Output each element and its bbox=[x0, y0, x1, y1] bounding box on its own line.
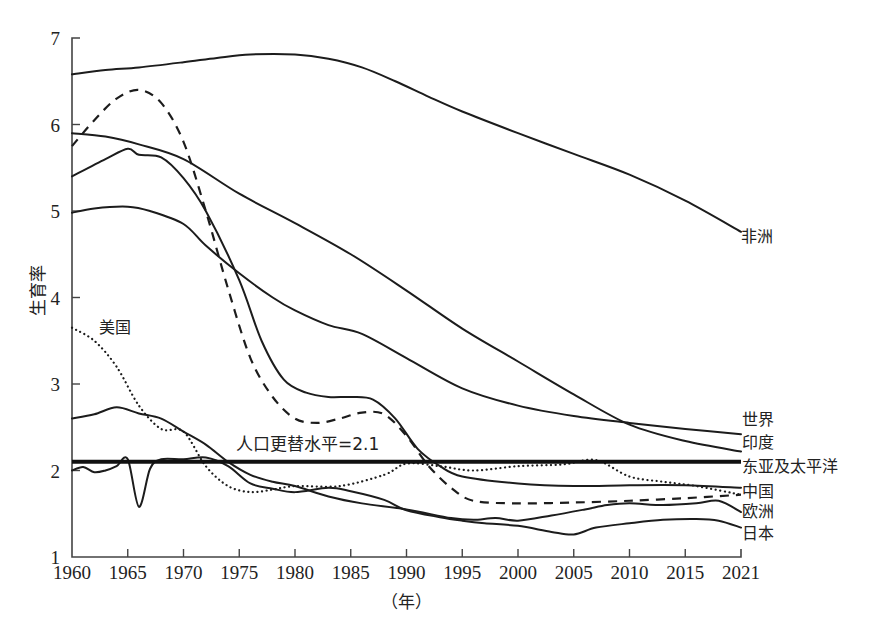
series-label-europe: 欧洲 bbox=[742, 502, 774, 521]
x-tick-label: 2000 bbox=[499, 562, 537, 583]
replacement-level-label: 人口更替水平=2.1 bbox=[236, 434, 379, 454]
y-tick-label: 5 bbox=[51, 201, 61, 222]
y-tick-label: 2 bbox=[51, 461, 61, 482]
x-axis-label: （年） bbox=[381, 592, 432, 612]
series-label-india: 印度 bbox=[742, 433, 774, 452]
series-label-japan: 日本 bbox=[742, 524, 774, 543]
series-label-china: 中国 bbox=[742, 482, 774, 501]
y-tick-label: 4 bbox=[51, 288, 61, 309]
x-tick-label: 1995 bbox=[443, 562, 481, 583]
series-label-east-asia-pacific: 东亚及太平洋 bbox=[742, 457, 838, 476]
x-tick-label: 1985 bbox=[332, 562, 370, 583]
series-line-日本 bbox=[72, 457, 741, 534]
series-line-东亚及太平洋 bbox=[72, 149, 741, 488]
x-tick-label: 2010 bbox=[611, 562, 649, 583]
series-line-中国 bbox=[72, 90, 741, 504]
series-line-美国 bbox=[72, 328, 741, 495]
series-label-world: 世界 bbox=[742, 410, 774, 429]
x-tick-label: 1980 bbox=[276, 562, 314, 583]
x-tick-label: 1965 bbox=[109, 562, 147, 583]
axis-lines bbox=[72, 38, 741, 557]
axes: 1234567196019651970197519801985199019952… bbox=[51, 28, 761, 583]
x-tick-label: 1975 bbox=[220, 562, 258, 583]
fertility-rate-chart: 1234567196019651970197519801985199019952… bbox=[0, 0, 893, 634]
x-tick-label: 2015 bbox=[666, 562, 704, 583]
x-tick-label: 1970 bbox=[165, 562, 203, 583]
y-tick-label: 6 bbox=[51, 115, 61, 136]
x-tick-label: 2005 bbox=[555, 562, 593, 583]
y-tick-label: 7 bbox=[51, 28, 61, 49]
series-lines bbox=[72, 54, 741, 535]
series-label-africa: 非洲 bbox=[741, 227, 773, 246]
y-tick-label: 3 bbox=[51, 374, 61, 395]
x-tick-label: 1960 bbox=[53, 562, 91, 583]
series-line-世界 bbox=[72, 207, 741, 435]
series-line-印度 bbox=[72, 133, 741, 451]
x-tick-label: 1990 bbox=[388, 562, 426, 583]
series-line-非洲 bbox=[72, 54, 741, 232]
x-tick-label: 2021 bbox=[722, 562, 760, 583]
series-label-us: 美国 bbox=[99, 318, 131, 337]
y-axis-label: 生育率 bbox=[28, 265, 48, 316]
